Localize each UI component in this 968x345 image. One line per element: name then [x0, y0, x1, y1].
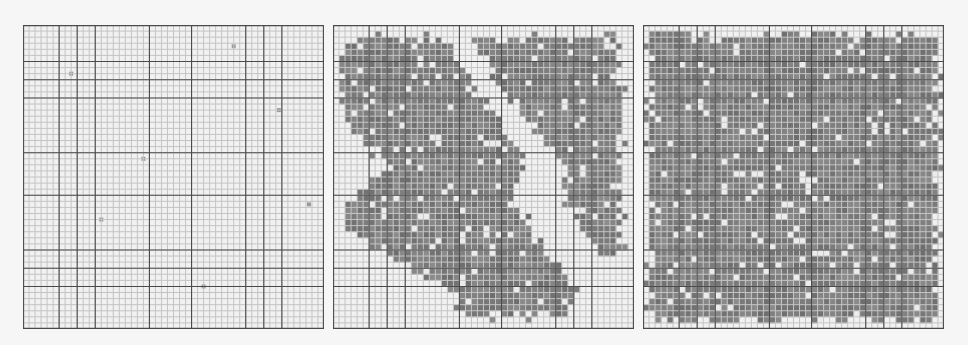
occupied-cell [884, 92, 890, 98]
occupied-cell [842, 128, 848, 134]
occupied-cell [532, 274, 538, 280]
occupied-cell [616, 122, 622, 128]
occupied-cell [818, 165, 824, 171]
empty-cell-marker [538, 299, 543, 304]
occupied-cell [655, 55, 661, 61]
occupied-cell [496, 116, 502, 122]
occupied-cell [453, 116, 459, 122]
occupied-cell [739, 49, 745, 55]
occupied-cell [727, 189, 733, 195]
occupied-cell [896, 207, 902, 213]
empty-cell-marker [568, 178, 573, 183]
empty-cell-marker [698, 62, 703, 67]
occupied-cell [685, 317, 691, 323]
occupied-cell [932, 268, 938, 274]
occupied-cell [447, 286, 453, 292]
occupied-cell [860, 98, 866, 104]
occupied-cell [417, 220, 423, 226]
occupied-cell [655, 49, 661, 55]
occupied-cell [375, 213, 381, 219]
occupied-cell [351, 98, 357, 104]
occupied-cell [830, 299, 836, 305]
occupied-cell [667, 238, 673, 244]
occupied-cell [598, 207, 604, 213]
occupied-cell [405, 232, 411, 238]
empty-cell-marker [896, 99, 901, 104]
occupied-cell [757, 293, 763, 299]
occupied-cell [562, 122, 568, 128]
occupied-cell [655, 122, 661, 128]
occupied-cell [733, 159, 739, 165]
occupied-cell [703, 159, 709, 165]
occupied-cell [787, 68, 793, 74]
occupied-cell [429, 92, 435, 98]
occupied-cell [598, 171, 604, 177]
occupied-cell [733, 244, 739, 250]
occupied-cell [381, 171, 387, 177]
occupied-cell [848, 104, 854, 110]
occupied-cell [550, 37, 556, 43]
occupied-cell [568, 104, 574, 110]
occupied-cell [739, 74, 745, 80]
occupied-cell [544, 274, 550, 280]
occupied-cell [610, 171, 616, 177]
occupied-cell [896, 68, 902, 74]
occupied-cell [763, 116, 769, 122]
occupied-cell [902, 116, 908, 122]
occupied-cell [872, 68, 878, 74]
occupied-cell [757, 159, 763, 165]
occupied-cell [514, 80, 520, 86]
occupied-cell [872, 49, 878, 55]
occupied-cell [872, 159, 878, 165]
occupied-cell [830, 201, 836, 207]
occupied-cell [733, 98, 739, 104]
occupied-cell [661, 305, 667, 311]
occupied-cell [812, 232, 818, 238]
occupied-cell [787, 293, 793, 299]
occupied-cell [568, 122, 574, 128]
occupied-cell [459, 286, 465, 292]
occupied-cell [477, 153, 483, 159]
occupied-cell [914, 92, 920, 98]
empty-cell-marker [412, 44, 417, 49]
occupied-cell [709, 195, 715, 201]
empty-cell-marker [806, 281, 811, 286]
occupied-cell [763, 165, 769, 171]
occupied-cell [842, 92, 848, 98]
occupied-cell [655, 86, 661, 92]
occupied-cell [417, 43, 423, 49]
empty-cell-marker [484, 141, 489, 146]
occupied-cell [709, 86, 715, 92]
occupied-cell [733, 104, 739, 110]
occupied-cell [667, 55, 673, 61]
occupied-cell [818, 274, 824, 280]
occupied-cell [727, 286, 733, 292]
empty-cell-marker [939, 263, 944, 268]
empty-cell-marker [692, 153, 697, 158]
empty-cell-marker [394, 196, 399, 201]
occupied-cell [878, 189, 884, 195]
empty-cell-marker [580, 117, 585, 122]
occupied-cell [586, 43, 592, 49]
occupied-cell [405, 213, 411, 219]
occupied-cell [673, 147, 679, 153]
occupied-cell [526, 226, 532, 232]
occupied-cell [520, 274, 526, 280]
occupied-cell [818, 110, 824, 116]
occupied-cell [830, 195, 836, 201]
occupied-cell [490, 299, 496, 305]
occupied-cell [691, 147, 697, 153]
occupied-cell [757, 317, 763, 323]
occupied-cell [661, 220, 667, 226]
occupied-cell [890, 189, 896, 195]
occupied-cell [447, 49, 453, 55]
occupied-cell [477, 49, 483, 55]
occupied-cell [568, 189, 574, 195]
occupied-cell [763, 250, 769, 256]
occupied-cell [715, 104, 721, 110]
occupied-cell [484, 305, 490, 311]
occupied-cell [369, 213, 375, 219]
occupied-cell [727, 244, 733, 250]
occupied-cell [405, 250, 411, 256]
occupied-cell [532, 104, 538, 110]
